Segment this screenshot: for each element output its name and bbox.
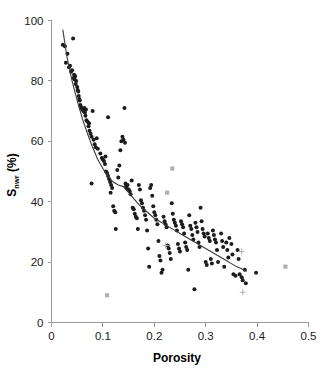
data-point	[221, 245, 225, 249]
data-point	[171, 212, 175, 216]
data-point	[155, 222, 159, 226]
data-point	[71, 37, 75, 41]
data-point	[183, 240, 187, 244]
data-point	[156, 239, 160, 243]
data-point	[214, 240, 218, 244]
data-point	[150, 194, 154, 198]
data-point	[64, 61, 68, 65]
data-point	[144, 218, 148, 222]
data-point	[143, 213, 147, 217]
chart-figure: 02040608010000.10.20.30.40.5 Porosity Sn…	[0, 0, 322, 369]
x-tick-label-0.3: 0.3	[198, 330, 214, 342]
y-tick-label-0: 0	[37, 317, 43, 329]
data-point	[200, 219, 204, 223]
data-point	[137, 183, 141, 187]
data-point	[239, 249, 245, 255]
data-point	[170, 201, 174, 205]
data-point	[224, 240, 228, 244]
data-point	[220, 239, 224, 243]
x-tick-label-0: 0	[48, 330, 54, 342]
data-point	[208, 239, 212, 243]
data-point	[167, 247, 171, 251]
x-tick-label-0.4: 0.4	[249, 330, 266, 342]
svg-text:Snwr (%): Snwr (%)	[5, 153, 21, 196]
series-measurements-dark	[61, 37, 258, 292]
data-point	[192, 287, 196, 291]
data-point	[195, 230, 199, 234]
data-point	[283, 265, 287, 269]
data-point	[78, 99, 82, 103]
data-point	[114, 227, 118, 231]
data-point	[146, 247, 150, 251]
data-point	[189, 227, 193, 231]
data-point	[91, 109, 95, 113]
data-point	[222, 265, 226, 269]
data-point	[193, 221, 197, 225]
data-point	[212, 233, 216, 237]
data-point	[225, 248, 229, 252]
data-point	[237, 257, 241, 261]
x-tick-label-0.1: 0.1	[95, 330, 111, 342]
data-point	[140, 201, 144, 205]
data-point	[226, 256, 230, 260]
data-point	[95, 136, 99, 140]
data-point	[176, 242, 180, 246]
data-point	[168, 251, 172, 255]
data-point	[254, 271, 258, 275]
data-point	[234, 274, 238, 278]
data-point	[96, 147, 100, 151]
data-point	[116, 176, 120, 180]
y-tick-label-20: 20	[31, 256, 44, 268]
x-tick-label-0.2: 0.2	[146, 330, 162, 342]
data-point	[122, 106, 126, 110]
data-point	[229, 242, 233, 246]
data-point	[227, 236, 231, 240]
data-point	[187, 213, 191, 217]
data-point	[199, 206, 203, 210]
data-point	[158, 259, 162, 263]
data-point	[105, 293, 109, 297]
data-point	[109, 191, 113, 195]
data-point	[106, 115, 110, 119]
data-point	[190, 233, 194, 237]
data-point	[170, 166, 174, 170]
data-point	[205, 263, 209, 267]
data-point	[103, 162, 107, 166]
data-point	[194, 225, 198, 229]
data-point	[123, 141, 127, 145]
trend-curve-path	[63, 30, 247, 272]
data-point	[118, 148, 122, 152]
y-tick-label-100: 100	[24, 15, 43, 27]
data-point	[149, 183, 153, 187]
y-tick-label-80: 80	[31, 75, 44, 87]
x-tick-label-0.5: 0.5	[301, 330, 317, 342]
data-point	[201, 227, 205, 231]
data-point	[165, 191, 169, 195]
data-point	[215, 248, 219, 252]
data-point	[87, 121, 91, 125]
y-tick-label-60: 60	[31, 135, 44, 147]
axes-group	[48, 21, 309, 327]
data-point	[103, 154, 107, 158]
data-point	[130, 179, 134, 183]
data-point	[230, 253, 234, 257]
data-point	[113, 210, 117, 214]
data-point	[76, 89, 80, 93]
data-point	[83, 114, 87, 118]
data-point	[136, 227, 140, 231]
data-point	[203, 234, 207, 238]
data-point	[151, 204, 155, 208]
data-point	[209, 257, 213, 261]
data-point	[162, 215, 166, 219]
y-tick-label-40: 40	[31, 196, 44, 208]
scatter-plot: 02040608010000.10.20.30.40.5 Porosity Sn…	[0, 0, 322, 369]
data-point	[174, 224, 178, 228]
data-point	[73, 74, 77, 78]
y-axis-title: Snwr (%)	[5, 153, 21, 196]
data-point	[185, 248, 189, 252]
data-point	[126, 183, 130, 187]
data-point	[181, 225, 185, 229]
series-measurements-gray-cross	[163, 242, 246, 295]
data-point	[241, 278, 245, 282]
trend-curve-group	[63, 30, 247, 272]
